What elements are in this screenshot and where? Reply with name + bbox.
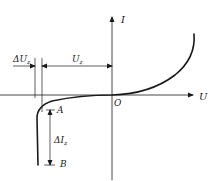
origin-label: O	[114, 98, 122, 108]
point-b-label: B	[59, 159, 67, 169]
y-axis-label: I	[120, 14, 126, 25]
zener-iv-diagram: I U O A B ΔUz Uz ΔIz	[0, 0, 218, 181]
x-axis-label: U	[199, 91, 208, 102]
delta-u-label: ΔUz	[12, 54, 31, 65]
u-z-label: Uz	[72, 54, 84, 65]
point-a-label: A	[56, 105, 64, 115]
delta-i-label: ΔIz	[53, 135, 68, 146]
diagram-canvas: I U O A B ΔUz Uz ΔIz	[0, 0, 218, 181]
